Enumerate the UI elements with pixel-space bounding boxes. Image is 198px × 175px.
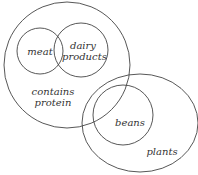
meat-label: meat — [22, 46, 58, 57]
plants-label: plants — [142, 146, 182, 157]
dairy-products-label: dairy products — [62, 40, 104, 62]
contains-protein-label: contains protein — [30, 86, 76, 108]
venn-diagram: meat dairy products contains protein bea… — [0, 0, 198, 175]
beans-label: beans — [110, 117, 150, 128]
contains-protein-circle — [4, 2, 130, 128]
